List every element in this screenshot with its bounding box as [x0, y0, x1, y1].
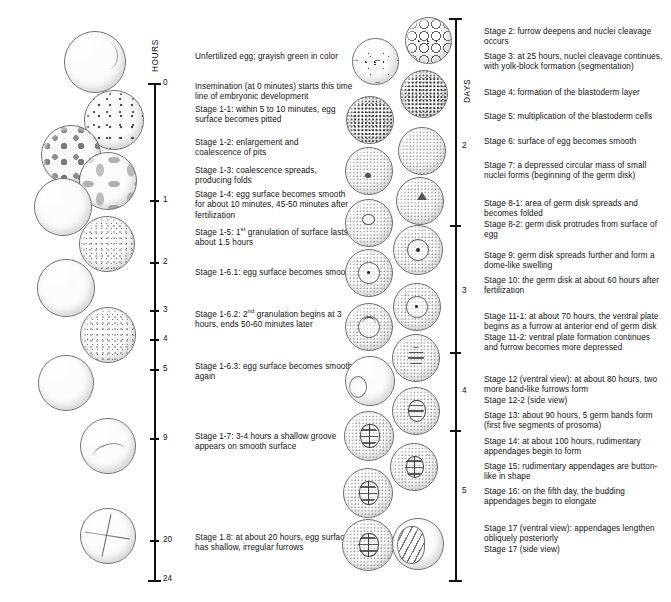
- egg-rim: [347, 97, 393, 143]
- hours-label-4: 4: [163, 334, 168, 343]
- caption-stage-11: Stage 11-1: at about 70 hours, the ventr…: [484, 312, 664, 353]
- egg-stage-1-6-1: [37, 259, 95, 317]
- caption-stage-1-5: Stage 1-5: 1st granulation of surface la…: [195, 228, 355, 249]
- caption-stage-1-8: Stage 1.8: at about 20 hours, egg surfac…: [195, 533, 358, 554]
- egg-rim: [346, 250, 392, 296]
- egg-rim: [397, 178, 443, 224]
- caption-stage-5: Stage 5: multiplication of the blastoder…: [484, 112, 664, 122]
- egg-rim: [346, 304, 392, 350]
- caption-stage-17: Stage 17 (ventral view): appendages leng…: [484, 524, 664, 555]
- egg-rim: [345, 412, 393, 460]
- egg-stage-7: [345, 147, 393, 195]
- egg-rim: [343, 520, 393, 570]
- egg-rim: [81, 509, 135, 563]
- egg-rim: [346, 148, 392, 194]
- egg-stage-8-2: [396, 177, 444, 225]
- egg-unfertilized: [64, 31, 126, 93]
- egg-stage-8-1: [345, 199, 393, 247]
- hours-axis-title: HOURS: [150, 39, 160, 72]
- egg-stage-1-7: [80, 418, 136, 474]
- figure-canvas: HOURS 0 1 2 3 4 5 9 20 24 Unfertilized e…: [0, 0, 671, 602]
- egg-rim: [391, 444, 437, 490]
- caption-stage-1-1: Stage 1-1: within 5 to 10 minutes, egg s…: [195, 105, 355, 126]
- egg-rim: [346, 357, 394, 405]
- egg-rim: [394, 226, 442, 274]
- caption-stage-1-4: Stage 1-4: egg surface becomes smooth fo…: [195, 190, 355, 221]
- days-tick-boundary-4-5: [450, 430, 461, 432]
- hours-label-9: 9: [163, 433, 168, 442]
- egg-stage-11-1: [393, 283, 441, 331]
- egg-stage-13: [392, 387, 440, 435]
- egg-stage-3: [352, 38, 399, 85]
- egg-rim: [393, 388, 439, 434]
- caption-stage-1-7: Stage 1-7: 3-4 hours a shallow groove ap…: [195, 432, 355, 453]
- caption-stage-15: Stage 15: rudimentary appendages are but…: [484, 462, 664, 483]
- egg-stage-12-2-side: [345, 356, 395, 406]
- hours-tick-9: [150, 438, 159, 440]
- caption-stage-1-5-prefix: Stage 1-5: 1: [195, 228, 241, 237]
- caption-stage-14: Stage 14: at about 100 hours, rudimentar…: [484, 437, 664, 458]
- egg-stage-17-side: [392, 518, 444, 570]
- egg-stage-4: [400, 70, 448, 118]
- hours-label-1: 1: [163, 195, 168, 204]
- caption-stage-6: Stage 6: surface of egg becomes smooth: [484, 137, 664, 147]
- egg-rim: [39, 356, 93, 410]
- caption-stage-2: Stage 2: furrow deepens and nuclei cleav…: [484, 27, 664, 48]
- caption-stage-7: Stage 7: a depressed circular mass of sm…: [484, 161, 664, 182]
- days-label-2: 2: [462, 141, 467, 150]
- egg-stage-15: [390, 443, 438, 491]
- hours-label-24: 24: [163, 574, 172, 583]
- egg-rim: [35, 179, 91, 235]
- hours-tick-1: [150, 200, 159, 202]
- caption-stage-1-6-3: Stage 1-6.3: egg surface becomes smooth …: [195, 362, 355, 383]
- caption-stage-1-6-1: Stage 1-6.1: egg surface becomes smooth: [195, 268, 355, 278]
- days-tick-boundary-2-3: [450, 225, 461, 227]
- hours-axis-cap-bottom: [148, 580, 161, 582]
- egg-crescent-mark: [99, 43, 118, 69]
- caption-stage-8: Stage 8-1: area of germ disk spreads and…: [484, 199, 664, 240]
- days-axis-cap-bottom: [449, 580, 462, 582]
- hours-label-5: 5: [163, 364, 168, 373]
- caption-stage-16: Stage 16: on the fifth day, the budding …: [484, 487, 664, 508]
- egg-stage-1-6-3: [38, 355, 94, 411]
- egg-stage-2: [405, 17, 452, 64]
- egg-rim: [346, 200, 392, 246]
- egg-rim: [81, 308, 135, 362]
- hours-tick-5: [150, 369, 159, 371]
- days-axis-line: [455, 18, 457, 581]
- egg-rim: [401, 71, 447, 117]
- egg-rim: [80, 217, 134, 271]
- egg-rim: [393, 519, 443, 569]
- egg-stage-1-6-2: [80, 307, 136, 363]
- hours-label-2: 2: [163, 257, 168, 266]
- egg-rim: [38, 260, 94, 316]
- caption-stage-12: Stage 12 (ventral view): at about 80 hou…: [484, 375, 664, 406]
- days-label-3: 3: [462, 286, 467, 295]
- egg-rim: [353, 39, 398, 84]
- hours-label-3: 3: [163, 305, 168, 314]
- caption-insemination: Insemination (at 0 minutes) starts this …: [195, 82, 355, 103]
- caption-stage-1-6-2: Stage 1-6.2: 2nd granulation begins at 3…: [195, 310, 361, 331]
- egg-stage-14: [344, 411, 394, 461]
- caption-stage-13: Stage 13: about 90 hours, 5 germ bands f…: [484, 411, 664, 432]
- egg-stage-1-8: [80, 508, 136, 564]
- days-label-5: 5: [462, 486, 467, 495]
- egg-stage-10-left: [345, 249, 393, 297]
- egg-stage-9: [393, 225, 443, 275]
- egg-stage-12-ventral: [392, 334, 440, 382]
- days-axis-title: DAYS: [462, 79, 472, 103]
- caption-stage-4: Stage 4: formation of the blastoderm lay…: [484, 88, 664, 98]
- egg-stage-5: [346, 96, 394, 144]
- caption-stage-9: Stage 9: germ disk spreads further and f…: [484, 251, 664, 272]
- caption-stage-1-3: Stage 1-3: coalescence spreads, producin…: [195, 166, 345, 187]
- egg-rim: [406, 18, 451, 63]
- egg-stage-17-ventral: [342, 519, 394, 571]
- days-axis-cap-top: [449, 18, 462, 20]
- caption-stage-10: Stage 10: the germ disk at about 60 hour…: [484, 276, 664, 297]
- days-label-4: 4: [462, 386, 467, 395]
- hours-tick-0: [150, 83, 159, 85]
- caption-unfertilized: Unfertilized egg; grayish green in color: [195, 52, 355, 62]
- egg-rim: [399, 128, 445, 174]
- hours-tick-2: [150, 262, 159, 264]
- hours-tick-3: [150, 310, 159, 312]
